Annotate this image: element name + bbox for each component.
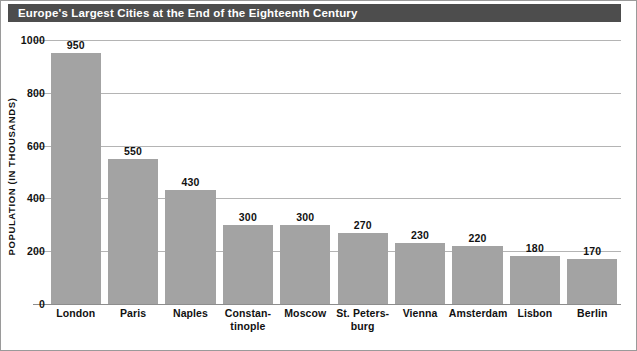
x-axis-category-label: Constan-tinople <box>219 307 276 333</box>
bar-group: 430 <box>165 40 215 304</box>
bar-group: 180 <box>510 40 560 304</box>
x-axis-line <box>47 304 621 305</box>
x-axis-category-label-line: Constan- <box>225 307 271 319</box>
y-axis-title-text: POPULATION (IN THOUSANDS) <box>7 98 18 256</box>
bar-group: 270 <box>338 40 388 304</box>
bar[interactable] <box>567 259 617 304</box>
plot-area: 0200400600800100095055043030030027023022… <box>47 40 621 304</box>
chart-figure: Europe's Largest Cities at the End of th… <box>0 0 637 351</box>
chart-title-bar: Europe's Largest Cities at the End of th… <box>8 4 621 22</box>
bar-value-label: 430 <box>165 176 215 188</box>
bar-group: 300 <box>223 40 273 304</box>
bar-group: 950 <box>51 40 101 304</box>
y-axis-tick-label: 1000 <box>1 34 45 46</box>
x-axis-category-label: Paris <box>104 307 161 320</box>
x-axis-category-label: Lisbon <box>506 307 563 320</box>
bar[interactable] <box>51 53 101 304</box>
x-axis-category-label: Vienna <box>391 307 448 320</box>
x-axis-category-labels: LondonParisNaplesConstan-tinopleMoscowSt… <box>47 307 621 351</box>
bar[interactable] <box>108 159 158 304</box>
x-axis-category-label-line: Berlin <box>577 307 607 319</box>
x-axis-category-label-line: Moscow <box>284 307 326 319</box>
x-axis-category-label-line: Amsterdam <box>449 307 508 319</box>
x-axis-category-label: St. Peters-burg <box>334 307 391 333</box>
bar-value-label: 170 <box>567 245 617 257</box>
bar-group: 550 <box>108 40 158 304</box>
x-axis-category-label: Amsterdam <box>449 307 506 320</box>
bar-value-label: 300 <box>223 211 273 223</box>
bar-group: 230 <box>395 40 445 304</box>
y-axis-tick-label: 600 <box>1 140 45 152</box>
bar-value-label: 220 <box>452 232 502 244</box>
bar[interactable] <box>223 225 273 304</box>
y-axis-tick-label: 0 <box>1 298 45 310</box>
bar-value-label: 300 <box>280 211 330 223</box>
bar-group: 170 <box>567 40 617 304</box>
x-axis-category-label: London <box>47 307 104 320</box>
x-axis-category-label-line: tinople <box>219 320 276 333</box>
bar[interactable] <box>338 233 388 304</box>
y-axis-tick-label: 800 <box>1 87 45 99</box>
x-axis-category-label-line: Vienna <box>403 307 438 319</box>
bar[interactable] <box>395 243 445 304</box>
bar-value-label: 180 <box>510 242 560 254</box>
bar-value-label: 230 <box>395 229 445 241</box>
bar[interactable] <box>452 246 502 304</box>
y-axis-tick-label: 200 <box>1 245 45 257</box>
bar[interactable] <box>165 190 215 304</box>
x-axis-category-label-line: Lisbon <box>517 307 552 319</box>
bar[interactable] <box>280 225 330 304</box>
x-axis-category-label: Moscow <box>277 307 334 320</box>
x-axis-category-label-line: London <box>56 307 95 319</box>
bar-group: 220 <box>452 40 502 304</box>
bar-value-label: 270 <box>338 219 388 231</box>
x-axis-category-label-line: St. Peters- <box>336 307 389 319</box>
x-axis-category-label-line: Naples <box>173 307 208 319</box>
x-axis-category-label: Berlin <box>564 307 621 320</box>
bar-group: 300 <box>280 40 330 304</box>
bar-value-label: 950 <box>51 39 101 51</box>
bar-value-label: 550 <box>108 145 158 157</box>
y-axis-tick-label: 400 <box>1 192 45 204</box>
x-axis-category-label-line: Paris <box>120 307 146 319</box>
x-axis-category-label: Naples <box>162 307 219 320</box>
bar[interactable] <box>510 256 560 304</box>
x-axis-category-label-line: burg <box>334 320 391 333</box>
chart-title: Europe's Largest Cities at the End of th… <box>18 7 358 19</box>
